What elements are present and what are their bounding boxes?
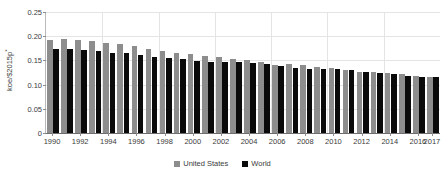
bar-united-states-1996[interactable] bbox=[132, 46, 138, 133]
bar-world-2007[interactable] bbox=[293, 68, 299, 133]
bar-group[interactable] bbox=[46, 12, 60, 133]
bar-united-states-2011[interactable] bbox=[343, 70, 349, 133]
bar-world-2003[interactable] bbox=[236, 62, 242, 133]
bar-united-states-2017[interactable] bbox=[427, 77, 433, 133]
bar-world-2010[interactable] bbox=[335, 69, 341, 133]
bar-world-2012[interactable] bbox=[363, 72, 369, 133]
bar-world-1990[interactable] bbox=[53, 49, 59, 133]
bar-united-states-1997[interactable] bbox=[146, 49, 152, 133]
bar-united-states-2005[interactable] bbox=[258, 62, 264, 133]
bar-group[interactable] bbox=[384, 12, 398, 133]
bar-united-states-1993[interactable] bbox=[89, 41, 95, 133]
bar-group[interactable] bbox=[102, 12, 116, 133]
bar-group[interactable] bbox=[187, 12, 201, 133]
x-axis-tick-label: 1992 bbox=[72, 137, 89, 146]
bars-layer bbox=[46, 12, 440, 133]
x-axis-tick-label: 2014 bbox=[381, 137, 398, 146]
bar-united-states-1995[interactable] bbox=[117, 44, 123, 133]
bar-group[interactable] bbox=[159, 12, 173, 133]
bar-group[interactable] bbox=[201, 12, 215, 133]
bar-world-1997[interactable] bbox=[152, 57, 158, 133]
bar-world-1996[interactable] bbox=[138, 55, 144, 133]
bar-group[interactable] bbox=[370, 12, 384, 133]
bar-united-states-1990[interactable] bbox=[47, 40, 53, 133]
bar-world-1992[interactable] bbox=[81, 50, 87, 133]
x-axis-tick-label: 2012 bbox=[353, 137, 370, 146]
bar-united-states-2001[interactable] bbox=[202, 56, 208, 133]
bar-united-states-2010[interactable] bbox=[329, 68, 335, 133]
x-axis-tick-mark bbox=[390, 133, 391, 136]
bar-united-states-2007[interactable] bbox=[286, 64, 292, 133]
x-axis-tick-mark bbox=[362, 133, 363, 136]
bar-group[interactable] bbox=[426, 12, 440, 133]
bar-world-1998[interactable] bbox=[166, 58, 172, 133]
bar-group[interactable] bbox=[342, 12, 356, 133]
bar-united-states-2003[interactable] bbox=[230, 59, 236, 133]
bar-united-states-2009[interactable] bbox=[314, 67, 320, 133]
bar-united-states-1991[interactable] bbox=[61, 39, 67, 133]
bar-group[interactable] bbox=[215, 12, 229, 133]
bar-group[interactable] bbox=[257, 12, 271, 133]
bar-united-states-1998[interactable] bbox=[160, 51, 166, 133]
bar-group[interactable] bbox=[88, 12, 102, 133]
bar-united-states-2015[interactable] bbox=[399, 74, 405, 133]
bar-united-states-2016[interactable] bbox=[413, 76, 419, 133]
bar-united-states-2013[interactable] bbox=[371, 72, 377, 133]
bar-world-2015[interactable] bbox=[405, 76, 411, 133]
legend-swatch-icon bbox=[242, 161, 248, 167]
bar-world-2002[interactable] bbox=[222, 62, 228, 133]
bar-group[interactable] bbox=[356, 12, 370, 133]
bar-world-2011[interactable] bbox=[349, 70, 355, 133]
bar-group[interactable] bbox=[412, 12, 426, 133]
bar-united-states-2006[interactable] bbox=[272, 65, 278, 133]
bar-world-2017[interactable] bbox=[433, 77, 439, 133]
bar-united-states-2000[interactable] bbox=[188, 54, 194, 133]
bar-group[interactable] bbox=[173, 12, 187, 133]
bar-world-2009[interactable] bbox=[321, 69, 327, 133]
bar-united-states-1999[interactable] bbox=[174, 53, 180, 133]
bar-group[interactable] bbox=[116, 12, 130, 133]
bar-united-states-1994[interactable] bbox=[103, 43, 109, 133]
x-axis-tick-mark bbox=[305, 133, 306, 136]
y-axis-tick-label: 0.25 bbox=[27, 8, 42, 17]
x-axis-tick-mark bbox=[165, 133, 166, 136]
bar-world-2001[interactable] bbox=[208, 62, 214, 133]
bar-group[interactable] bbox=[398, 12, 412, 133]
bar-group[interactable] bbox=[130, 12, 144, 133]
bar-world-2005[interactable] bbox=[264, 64, 270, 133]
bar-united-states-1992[interactable] bbox=[75, 40, 81, 133]
bar-group[interactable] bbox=[145, 12, 159, 133]
bar-united-states-2004[interactable] bbox=[244, 60, 250, 133]
y-axis-tick-mark bbox=[43, 85, 46, 86]
bar-world-2014[interactable] bbox=[391, 74, 397, 133]
bar-world-2013[interactable] bbox=[377, 73, 383, 133]
bar-world-1994[interactable] bbox=[110, 53, 116, 133]
bar-world-2008[interactable] bbox=[307, 69, 313, 133]
legend-item-world[interactable]: World bbox=[242, 159, 270, 168]
bar-world-2000[interactable] bbox=[194, 61, 200, 133]
bar-group[interactable] bbox=[243, 12, 257, 133]
legend-item-united-states[interactable]: United States bbox=[174, 159, 228, 168]
bar-united-states-2002[interactable] bbox=[216, 57, 222, 133]
bar-group[interactable] bbox=[285, 12, 299, 133]
bar-group[interactable] bbox=[313, 12, 327, 133]
bar-world-2016[interactable] bbox=[419, 77, 425, 133]
bar-united-states-2012[interactable] bbox=[357, 72, 363, 133]
bar-world-1993[interactable] bbox=[96, 51, 102, 133]
bar-group[interactable] bbox=[74, 12, 88, 133]
bar-group[interactable] bbox=[229, 12, 243, 133]
bar-world-1995[interactable] bbox=[124, 53, 130, 133]
bar-world-1991[interactable] bbox=[67, 49, 73, 133]
y-axis-tick-label: 0 bbox=[38, 129, 42, 138]
bar-world-1999[interactable] bbox=[180, 59, 186, 133]
bar-world-2004[interactable] bbox=[250, 63, 256, 133]
bar-group[interactable] bbox=[299, 12, 313, 133]
bar-united-states-2008[interactable] bbox=[300, 65, 306, 133]
bar-group[interactable] bbox=[60, 12, 74, 133]
bar-united-states-2014[interactable] bbox=[385, 73, 391, 133]
x-axis-tick-label: 2002 bbox=[213, 137, 230, 146]
bar-world-2006[interactable] bbox=[278, 66, 284, 133]
bar-group[interactable] bbox=[327, 12, 341, 133]
bar-group[interactable] bbox=[271, 12, 285, 133]
x-axis-tick-mark bbox=[193, 133, 194, 136]
